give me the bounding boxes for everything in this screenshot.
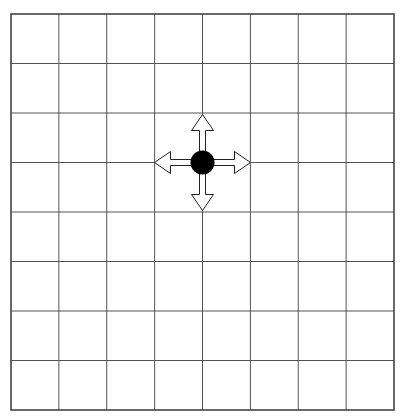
grid-lines xyxy=(11,14,394,410)
grid-board xyxy=(0,0,405,420)
piece-token[interactable] xyxy=(191,151,215,175)
